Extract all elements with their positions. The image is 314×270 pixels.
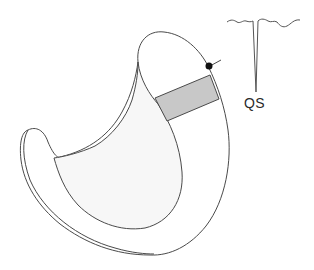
electrode-icon — [206, 63, 213, 70]
diagram-canvas — [0, 0, 314, 270]
ecg-trace — [227, 19, 300, 92]
ecg-label: QS — [244, 95, 265, 111]
